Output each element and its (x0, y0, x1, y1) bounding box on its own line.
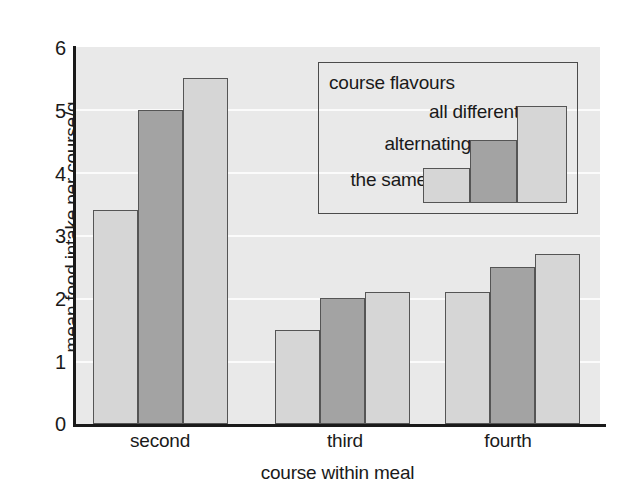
legend-label-the-same: the same (350, 169, 427, 191)
y-tick-label: 6 (6, 37, 66, 60)
y-axis-line (73, 46, 76, 426)
bar-third-all-different (365, 292, 410, 424)
y-tick-label: 0 (6, 413, 66, 436)
bar-second-all-different (183, 78, 228, 424)
y-tick-label: 4 (6, 163, 66, 186)
bar-fourth-all-different (535, 254, 580, 424)
bar-fourth-alternating (490, 267, 535, 424)
y-tick-label: 3 (6, 225, 66, 248)
x-axis-title: course within meal (75, 462, 600, 484)
bar-chart-figure: mean food intake per course/g 6 5 4 3 2 … (0, 0, 618, 493)
bar-fourth-the-same (445, 292, 490, 424)
legend-title: course flavours (329, 72, 455, 94)
y-axis-tick-labels: 6 5 4 3 2 1 0 (0, 0, 66, 493)
x-tick-label-fourth: fourth (484, 430, 531, 452)
y-tick-label: 5 (6, 100, 66, 123)
bar-second-alternating (138, 110, 183, 424)
legend-label-alternating: alternating (384, 133, 471, 155)
legend-swatch-alternating (470, 140, 517, 203)
y-tick-label: 2 (6, 288, 66, 311)
bar-third-alternating (320, 298, 365, 424)
x-tick-label-second: second (130, 430, 190, 452)
legend-label-all-different: all different (429, 101, 519, 123)
legend-box: course flavours all different alternatin… (318, 62, 578, 214)
legend-swatch-the-same (423, 168, 470, 203)
x-axis-line (73, 424, 606, 427)
x-tick-label-third: third (327, 430, 363, 452)
bar-third-the-same (275, 330, 320, 424)
y-tick-label: 1 (6, 351, 66, 374)
bar-second-the-same (93, 210, 138, 424)
legend-swatch-all-different (517, 106, 567, 203)
